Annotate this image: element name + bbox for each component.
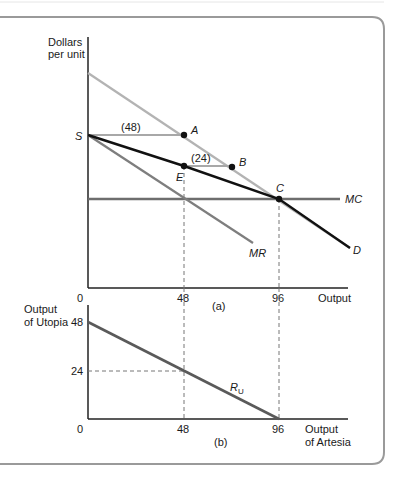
bracket-48: (48) xyxy=(121,121,141,133)
xlabel-b-2: of Artesia xyxy=(305,436,352,448)
ylabel-b-2: of Utopia xyxy=(24,316,69,328)
tick-96-a: 96 xyxy=(272,292,284,304)
bracket-24: (24) xyxy=(191,152,211,164)
xtick-48-b: 48 xyxy=(177,423,189,435)
ylabel-a-2: per unit xyxy=(48,48,85,60)
figure-frame xyxy=(0,17,384,464)
ytick-48-b: 48 xyxy=(71,316,83,328)
label-mc: MC xyxy=(345,193,362,205)
xlabel-b-1: Output xyxy=(305,423,338,435)
residual-demand-curve xyxy=(88,135,350,248)
panel-a: Dollars per unit S A B E C D MC MR (48) … xyxy=(48,36,362,312)
label-e: E xyxy=(176,171,184,183)
xlabel-a: Output xyxy=(318,292,351,304)
reaction-curve-label: R xyxy=(230,381,238,393)
label-b: B xyxy=(239,156,246,168)
label-mr: MR xyxy=(249,247,266,259)
reaction-label-main: R xyxy=(230,381,238,393)
panel-b: Output of Utopia 48 24 0 48 96 Output of… xyxy=(24,288,352,448)
point-c xyxy=(276,196,282,202)
origin-a: 0 xyxy=(77,292,83,304)
figure: Dollars per unit S A B E C D MC MR (48) … xyxy=(0,0,397,478)
reaction-curve-subscript: U xyxy=(238,387,244,396)
xtick-96-b: 96 xyxy=(272,423,284,435)
label-d: D xyxy=(353,244,361,256)
mr-line xyxy=(88,135,253,243)
ylabel-b-1: Output xyxy=(24,303,57,315)
point-b xyxy=(229,164,235,170)
label-a: A xyxy=(190,124,198,136)
ytick-24-b: 24 xyxy=(71,365,83,377)
origin-b: 0 xyxy=(77,423,83,435)
caption-a: (a) xyxy=(212,300,225,312)
point-e xyxy=(181,163,187,169)
ylabel-a-1: Dollars xyxy=(48,36,83,48)
label-s: S xyxy=(75,130,83,142)
label-c: C xyxy=(276,182,284,194)
tick-48-a: 48 xyxy=(177,292,189,304)
point-a xyxy=(181,132,187,138)
caption-b: (b) xyxy=(214,436,227,448)
